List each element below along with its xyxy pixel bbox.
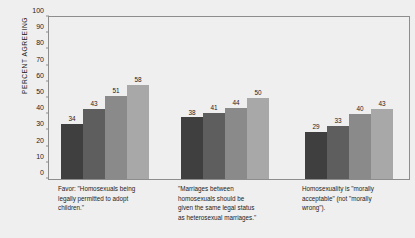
bar-group: 38414450: [181, 17, 269, 179]
x-axis-category-label-line: children.": [58, 203, 180, 213]
x-axis-category-label-line: homosexuals should be: [178, 194, 300, 204]
bar-value-label: 43: [371, 101, 393, 107]
y-axis-tick-mark: [46, 145, 49, 146]
bar-slot: 34: [61, 17, 83, 179]
x-axis-category-label: Favor: "Homosexuals beinglegally permitt…: [58, 184, 180, 213]
bar-value-label: 40: [349, 106, 371, 112]
bar-slot: 43: [83, 17, 105, 179]
bar: 41: [203, 113, 225, 179]
y-axis-tick-label: 40: [36, 104, 49, 111]
bar-slot: 41: [203, 17, 225, 179]
bar: 44: [225, 108, 247, 179]
x-axis-category-label: Homosexuality is "morallyacceptable" (no…: [302, 184, 415, 213]
y-axis-tick-label: 20: [36, 136, 49, 143]
bar: 34: [61, 124, 83, 179]
bar-slot: 50: [247, 17, 269, 179]
bar-value-label: 29: [305, 124, 327, 130]
bar-value-label: 41: [203, 105, 225, 111]
y-axis-tick-mark: [46, 32, 49, 33]
bar-group: 29334043: [305, 17, 393, 179]
y-axis-tick-mark: [46, 80, 49, 81]
bar: 58: [127, 85, 149, 179]
bar-slot: 43: [371, 17, 393, 179]
bar-value-label: 38: [181, 110, 203, 116]
y-axis-tick-label: 60: [36, 71, 49, 78]
x-axis-category-label-line: "Marriages between: [178, 184, 300, 194]
bar: 33: [327, 126, 349, 179]
y-axis-tick-mark: [46, 178, 49, 179]
x-axis-category-label: "Marriages betweenhomosexuals should beg…: [178, 184, 300, 222]
y-axis-tick-mark: [46, 16, 49, 17]
bar: 40: [349, 114, 371, 179]
y-axis-tick-mark: [46, 113, 49, 114]
chart-figure: Year of survey: 1995-2000 2001-2006 2007…: [0, 0, 415, 238]
bar-slot: 44: [225, 17, 247, 179]
y-axis-tick-mark: [46, 48, 49, 49]
bar-value-label: 34: [61, 116, 83, 122]
y-axis-tick-mark: [46, 129, 49, 130]
y-axis-tick-label: 80: [36, 39, 49, 46]
bar-slot: 38: [181, 17, 203, 179]
bar-slot: 33: [327, 17, 349, 179]
bar: 43: [371, 109, 393, 179]
x-axis-category-label-line: as heterosexual marriages.": [178, 213, 300, 223]
bar-value-label: 58: [127, 77, 149, 83]
y-axis-tick-mark: [46, 64, 49, 65]
x-axis-category-label-line: Favor: "Homosexuals being: [58, 184, 180, 194]
y-axis-tick-label: 70: [36, 55, 49, 62]
x-axis-category-label-line: legally permitted to adopt: [58, 194, 180, 204]
bar: 51: [105, 96, 127, 179]
y-axis-title: PERCENT AGREEING: [21, 0, 28, 116]
x-axis-category-label-line: given the same legal status: [178, 203, 300, 213]
y-axis-tick-label: 90: [36, 23, 49, 30]
bar-value-label: 44: [225, 100, 247, 106]
y-axis-tick-label: 0: [40, 169, 49, 176]
bar-slot: 58: [127, 17, 149, 179]
bar-value-label: 51: [105, 88, 127, 94]
bar-slot: 29: [305, 17, 327, 179]
bar-slot: 51: [105, 17, 127, 179]
bar-value-label: 50: [247, 90, 269, 96]
bar-value-label: 43: [83, 101, 105, 107]
bar: 50: [247, 98, 269, 179]
y-axis-tick-mark: [46, 161, 49, 162]
x-axis-category-label-line: acceptable" (not "morally: [302, 194, 415, 204]
x-axis-category-label-line: Homosexuality is "morally: [302, 184, 415, 194]
y-axis-tick-label: 100: [32, 7, 49, 14]
bar-value-label: 33: [327, 118, 349, 124]
y-axis-tick-mark: [46, 97, 49, 98]
y-axis-tick-label: 50: [36, 88, 49, 95]
y-axis-tick-label: 30: [36, 120, 49, 127]
bar: 43: [83, 109, 105, 179]
bar: 38: [181, 117, 203, 179]
plot-area: 0102030405060708090100 34435158384144502…: [48, 16, 410, 180]
y-axis-tick-label: 10: [36, 152, 49, 159]
x-axis-category-label-line: wrong").: [302, 203, 415, 213]
bar-group: 34435158: [61, 17, 149, 179]
bar: 29: [305, 132, 327, 179]
bar-slot: 40: [349, 17, 371, 179]
